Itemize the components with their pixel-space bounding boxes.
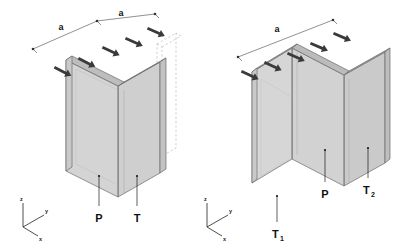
axis-label-x: x [39, 236, 43, 242]
dim-tick-start-right [237, 56, 240, 59]
callout-subscript-t2: 2 [371, 191, 375, 198]
dimension-label-a1: a [58, 22, 64, 32]
dim-tick-end-right [332, 19, 335, 22]
axis-label-y: y [45, 208, 49, 214]
dimension-label-a-right: a [274, 24, 280, 34]
plate-p-body-right [292, 44, 349, 186]
callout-label-t2-group: T 2 [363, 184, 375, 198]
diagram-canvas: a a [0, 0, 408, 250]
plate-p-body [66, 56, 124, 197]
callout-dot-p-right [324, 149, 326, 151]
callout-label-p: P [95, 212, 102, 224]
axis-label-z: z [20, 196, 23, 202]
plate-t1-body [252, 44, 297, 183]
axis-label-y-right: y [229, 208, 233, 214]
axis-label-z-right: z [204, 196, 207, 202]
callout-label-t2: T [363, 184, 370, 196]
right-channel-assembly: a [204, 19, 390, 242]
axis-label-x-right: x [223, 236, 227, 242]
dim-tick-mid [96, 20, 99, 23]
callout-label-t1-group: T 1 [272, 228, 284, 242]
plate-t-body [118, 58, 166, 197]
axis-triad-left [23, 203, 44, 236]
plate-t2-body [344, 48, 390, 186]
callout-dot-t1 [276, 195, 278, 197]
dimension-label-a2: a [118, 8, 124, 18]
dim-tick-start [32, 48, 35, 51]
callout-label-t: T [134, 212, 141, 224]
callout-subscript-t1: 1 [280, 235, 284, 242]
callout-label-p-right: P [321, 188, 328, 200]
left-angle-assembly: a a [20, 8, 181, 242]
callout-dot-t [136, 175, 138, 177]
callout-label-t1: T [272, 228, 279, 240]
left-panel-figure: a a [0, 0, 408, 250]
dim-tick-end [154, 13, 157, 16]
callout-dot-t2 [367, 147, 369, 149]
callout-dot-p [98, 175, 100, 177]
axis-triad-right [207, 203, 228, 236]
